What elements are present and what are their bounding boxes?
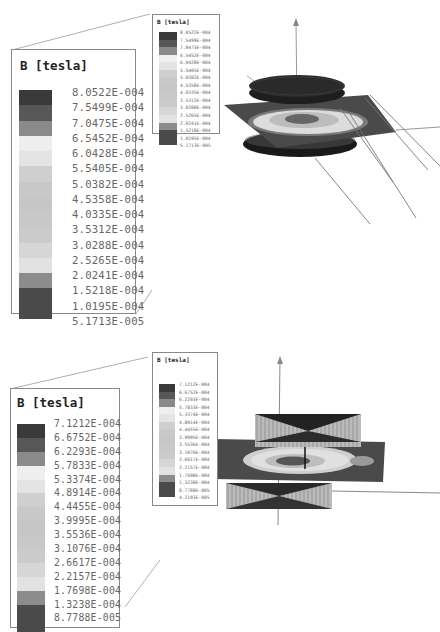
color-band (159, 475, 175, 483)
color-band (159, 100, 177, 108)
level-label: 2.2157E-004 (54, 570, 121, 584)
color-band (159, 437, 175, 445)
color-band (17, 549, 45, 563)
color-band (17, 618, 45, 632)
level-label: 6.6752E-004 (54, 431, 121, 445)
color-band (159, 422, 175, 430)
level-label: 8.7788E-005 (179, 487, 209, 495)
bottom-field-plot: B [tesla] 7.1212E-004 6.6752E-004 6.2293… (0, 345, 440, 607)
color-band (159, 384, 175, 392)
level-label: 5.1713E-005 (72, 314, 144, 329)
color-band (159, 392, 175, 400)
level-label: 7.5499E-004 (72, 100, 144, 115)
level-label: 5.5405E-004 (180, 67, 210, 75)
color-band (159, 115, 177, 123)
legend-title: B [tesla] (20, 58, 88, 73)
color-band (159, 429, 175, 437)
legend-title: B [tesla] (157, 18, 190, 25)
color-band (19, 243, 52, 258)
color-band (19, 227, 52, 242)
level-label: 6.5452E-004 (180, 52, 210, 60)
level-label: 4.8914E-004 (54, 486, 121, 500)
color-band (159, 407, 175, 415)
level-label: 8.0522E-004 (72, 85, 144, 100)
level-label: 3.0288E-004 (72, 238, 144, 253)
color-band (159, 414, 175, 422)
color-band (17, 507, 45, 521)
color-band (19, 212, 52, 227)
color-band (159, 40, 177, 48)
top-magnified-legend: B [tesla] 8.0522E-004 7.5499E-004 7.0475… (11, 49, 136, 314)
color-band (159, 92, 177, 100)
color-band (17, 438, 45, 452)
level-label: 2.0241E-004 (180, 120, 210, 128)
level-label: 6.0428E-004 (180, 59, 210, 67)
level-label: 6.0428E-004 (72, 146, 144, 161)
level-label: 3.5312E-004 (180, 97, 210, 105)
color-band (19, 273, 52, 288)
color-band (19, 197, 52, 212)
level-label: 3.0288E-004 (180, 104, 210, 112)
color-band (159, 399, 175, 407)
level-label: 1.3238E-004 (54, 598, 121, 612)
color-scale (17, 424, 45, 632)
level-label: 6.6752E-004 (179, 389, 209, 397)
level-label: 3.9995E-004 (179, 434, 209, 442)
color-band (19, 105, 52, 120)
level-label: 4.4455E-004 (179, 426, 209, 434)
top-small-legend: B [tesla] 8.0522E-004 7.5499E-004 7.0475… (152, 14, 220, 134)
color-band (17, 493, 45, 507)
level-label: 2.6617E-004 (54, 556, 121, 570)
level-labels: 8.0522E-004 7.5499E-004 7.0475E-004 6.54… (72, 85, 144, 329)
color-band (19, 166, 52, 181)
color-scale (159, 32, 177, 145)
level-label: 8.0522E-004 (180, 29, 210, 37)
level-label: 2.6617E-004 (179, 456, 209, 464)
level-label: 6.2293E-004 (179, 396, 209, 404)
color-band (159, 47, 177, 55)
level-label: 5.0382E-004 (72, 177, 144, 192)
color-band (159, 482, 175, 490)
level-label: 5.7833E-004 (54, 459, 121, 473)
level-label: 7.0475E-004 (72, 116, 144, 131)
level-label: 1.5218E-004 (72, 283, 144, 298)
level-label: 4.4455E-004 (54, 500, 121, 514)
bottom-small-legend: B [tesla] 7.1212E-004 6.6752E-004 6.2293… (152, 352, 218, 506)
level-label: 5.3374E-004 (54, 473, 121, 487)
color-band (17, 480, 45, 494)
color-band (159, 55, 177, 63)
legend-title: B [tesla] (157, 356, 190, 363)
level-label: 8.7788E-005 (54, 611, 121, 625)
color-band (159, 123, 177, 131)
level-label: 3.1076E-004 (54, 542, 121, 556)
level-label: 3.5536E-004 (179, 441, 209, 449)
color-band (19, 90, 52, 105)
level-label: 7.5499E-004 (180, 37, 210, 45)
color-band (19, 182, 52, 197)
level-label: 4.3193E-005 (179, 494, 209, 502)
level-label: 3.1076E-004 (179, 449, 209, 457)
level-label: 1.0195E-004 (72, 299, 144, 314)
level-label: 7.0475E-004 (180, 44, 210, 52)
level-label: 2.5265E-004 (180, 112, 210, 120)
color-band (159, 444, 175, 452)
level-label: 4.8914E-004 (179, 419, 209, 427)
level-label: 3.5312E-004 (72, 222, 144, 237)
level-label: 3.9995E-004 (54, 514, 121, 528)
color-band (159, 459, 175, 467)
color-band (159, 70, 177, 78)
level-label: 4.5358E-004 (180, 82, 210, 90)
level-label: 1.5218E-004 (180, 127, 210, 135)
color-band (159, 85, 177, 93)
legend-title: B [tesla] (17, 395, 85, 410)
color-scale (159, 384, 175, 497)
color-band (159, 77, 177, 85)
level-label: 1.7698E-004 (179, 472, 209, 480)
color-band (159, 490, 175, 498)
level-labels: 7.1212E-004 6.6752E-004 6.2293E-004 5.78… (179, 381, 209, 502)
color-band (17, 563, 45, 577)
level-labels: 8.0522E-004 7.5499E-004 7.0475E-004 6.54… (180, 29, 210, 150)
color-scale (19, 90, 52, 319)
color-band (159, 107, 177, 115)
color-band (17, 521, 45, 535)
